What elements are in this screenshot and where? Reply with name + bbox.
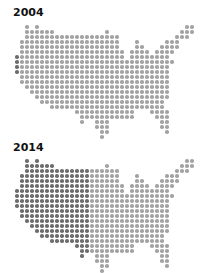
map-dot [130, 194, 134, 198]
map-dot [190, 159, 194, 163]
map-dot [85, 189, 89, 193]
map-dot [55, 174, 59, 178]
map-dot [40, 199, 44, 203]
map-dot [20, 189, 24, 193]
map-dot [110, 189, 114, 193]
map-dot [115, 179, 119, 183]
map-dot [120, 224, 124, 228]
map-dot [160, 214, 164, 218]
map-dot [70, 224, 74, 228]
map-dot [175, 179, 179, 183]
map-dot [80, 174, 84, 178]
map-dot [130, 184, 134, 188]
map-dot [100, 264, 104, 268]
map-dot [135, 194, 139, 198]
map-dot [120, 249, 124, 253]
map-dot [15, 189, 19, 193]
map-dot [95, 259, 99, 263]
map-dot [60, 209, 64, 213]
map-dot [40, 224, 44, 228]
map-dot [25, 214, 29, 218]
map-dot [75, 229, 79, 233]
map-dot [135, 239, 139, 243]
map-dot [140, 209, 144, 213]
map-dot [25, 189, 29, 193]
map-dot [130, 209, 134, 213]
map-dot [85, 234, 89, 238]
map-dot [35, 164, 39, 168]
map-dot [140, 179, 144, 183]
map-dot [125, 229, 129, 233]
map-dot [130, 199, 134, 203]
map-dot [145, 229, 149, 233]
map-dot [155, 219, 159, 223]
map-dot [75, 169, 79, 173]
map-dot [155, 249, 159, 253]
map-dot [130, 244, 134, 248]
map-dot [75, 194, 79, 198]
map-dot [70, 169, 74, 173]
map-dot [115, 194, 119, 198]
map-dot [95, 199, 99, 203]
map-dot [75, 179, 79, 183]
map-dot [50, 199, 54, 203]
map-dot [160, 249, 164, 253]
map-dot [50, 234, 54, 238]
map-dot [90, 234, 94, 238]
map-dot [145, 239, 149, 243]
map-dot [25, 164, 29, 168]
map-dot [100, 229, 104, 233]
map-dot [60, 224, 64, 228]
map-dot [105, 259, 109, 263]
map-dot [160, 254, 164, 258]
map-dot [180, 164, 184, 168]
map-dot [120, 184, 124, 188]
map-dot [130, 234, 134, 238]
map-dot [35, 204, 39, 208]
map-dot [80, 209, 84, 213]
map-dot [135, 214, 139, 218]
map-dot [60, 239, 64, 243]
map-dot [100, 169, 104, 173]
map-dot [140, 239, 144, 243]
map-dot [165, 254, 169, 258]
map-dot [55, 224, 59, 228]
map-dot [170, 194, 174, 198]
map-dot [130, 189, 134, 193]
map-dot [140, 234, 144, 238]
map-dot [165, 214, 169, 218]
map-dot [155, 209, 159, 213]
map-dot [75, 184, 79, 188]
map-dot [65, 194, 69, 198]
map-dot [60, 194, 64, 198]
map-dot [30, 174, 34, 178]
map-dot [100, 249, 104, 253]
map-dot [55, 229, 59, 233]
map-dot [115, 199, 119, 203]
map-dot [60, 229, 64, 233]
map-dot [70, 194, 74, 198]
map-dot [70, 179, 74, 183]
map-dot [135, 174, 139, 178]
map-dot [75, 204, 79, 208]
map-dot [50, 194, 54, 198]
map-dot [95, 189, 99, 193]
map-dot [155, 204, 159, 208]
map-dot [120, 234, 124, 238]
map-dot [35, 184, 39, 188]
map-dot [85, 169, 89, 173]
map-dot [110, 244, 114, 248]
map-dot [50, 179, 54, 183]
map-dot [165, 174, 169, 178]
map-dot [115, 189, 119, 193]
map-dot [80, 244, 84, 248]
map-dot [90, 194, 94, 198]
map-dot [55, 184, 59, 188]
map-dot [115, 219, 119, 223]
map-dot [115, 239, 119, 243]
map-dot [55, 214, 59, 218]
map-dot [140, 204, 144, 208]
map-dot [120, 189, 124, 193]
map-dot [90, 184, 94, 188]
map-dot [95, 224, 99, 228]
